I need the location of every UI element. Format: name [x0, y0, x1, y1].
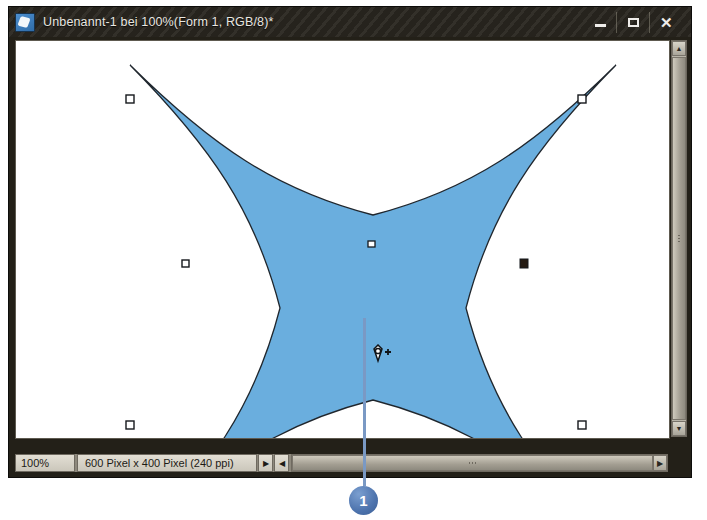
status-bar: 100% 600 Pixel x 400 Pixel (240 ppi) ▶ ◀…	[15, 454, 668, 472]
zoom-level-field[interactable]: 100%	[15, 454, 75, 472]
title-bar-left: Unbenannt-1 bei 100%(Form 1, RGB/8)*	[9, 13, 584, 32]
caret-up-icon: ▲	[676, 45, 683, 52]
window-controls: ✕	[584, 11, 682, 33]
anchor-bottom-right[interactable]	[578, 421, 586, 429]
minimize-button[interactable]	[584, 12, 616, 33]
maximize-button[interactable]	[616, 12, 649, 33]
anchor-mid-left[interactable]	[182, 260, 189, 267]
window-title: Unbenannt-1 bei 100%(Form 1, RGB/8)*	[43, 15, 274, 29]
anchor-mid-right[interactable]	[520, 259, 528, 268]
close-icon: ✕	[660, 15, 673, 30]
anchor-top-center[interactable]	[368, 241, 375, 247]
horizontal-scrollbar[interactable]: ▶	[291, 454, 668, 472]
minimize-icon	[595, 24, 606, 27]
vector-shape-artboard	[16, 41, 669, 438]
vertical-scroll-thumb[interactable]	[672, 57, 686, 420]
anchor-top-left[interactable]	[126, 95, 134, 103]
caret-left-icon: ◀	[279, 459, 285, 468]
scroll-right-button[interactable]: ▶	[653, 455, 667, 471]
photoshop-document-window: Unbenannt-1 bei 100%(Form 1, RGB/8)* ✕	[8, 6, 692, 478]
close-button[interactable]: ✕	[649, 12, 682, 33]
caret-right-icon: ▶	[657, 459, 663, 468]
document-dimensions-label: 600 Pixel x 400 Pixel (240 ppi)	[77, 454, 257, 472]
window-title-bar[interactable]: Unbenannt-1 bei 100%(Form 1, RGB/8)* ✕	[9, 7, 691, 37]
scroll-down-button[interactable]: ▼	[672, 421, 686, 436]
callout-leader-line	[363, 318, 366, 486]
status-collapse-button[interactable]: ◀	[274, 454, 289, 472]
callout-badge-1: 1	[349, 486, 378, 515]
status-expand-button[interactable]: ▶	[258, 454, 273, 472]
scroll-up-button[interactable]: ▲	[672, 41, 686, 56]
horizontal-scroll-thumb[interactable]	[292, 455, 653, 471]
anchor-top-right[interactable]	[578, 95, 586, 103]
four-pointed-star-path[interactable]	[130, 65, 616, 438]
document-canvas[interactable]	[15, 40, 670, 439]
photoshop-document-icon	[15, 13, 35, 32]
maximize-icon	[628, 18, 639, 27]
anchor-bottom-left[interactable]	[126, 421, 134, 429]
vertical-scrollbar[interactable]: ▲ ▼	[671, 40, 687, 437]
caret-down-icon: ▼	[676, 425, 683, 432]
caret-right-icon: ▶	[263, 459, 269, 468]
